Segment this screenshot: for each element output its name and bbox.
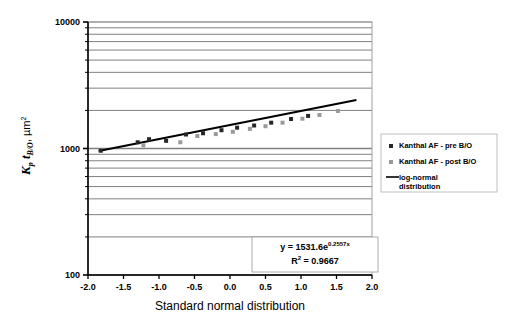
legend-label-pre-bo: Kanthal AF - pre B/O bbox=[399, 141, 472, 150]
r-squared-value: = 0.9667 bbox=[301, 256, 339, 266]
data-point-marker bbox=[289, 117, 293, 121]
x-axis-tick-label: 0.5 bbox=[259, 282, 272, 292]
y-axis-title-t-sub: B/O bbox=[26, 142, 35, 157]
equation-annotation: y = 1531.6e0.2557x R2 = 0.9667 bbox=[252, 237, 378, 272]
data-point-marker bbox=[136, 140, 140, 144]
y-axis-ticks-group bbox=[83, 22, 88, 275]
legend-marker-pre-bo-icon bbox=[389, 144, 393, 148]
data-point-marker bbox=[231, 130, 235, 134]
x-axis-title: Standard normal distribution bbox=[155, 299, 305, 313]
data-point-marker bbox=[300, 117, 304, 121]
data-point-marker bbox=[306, 114, 310, 118]
legend-marker-post-bo-icon bbox=[389, 160, 393, 164]
legend: Kanthal AF - pre B/O Kanthal AF - post B… bbox=[381, 134, 497, 192]
data-point-marker bbox=[99, 149, 103, 153]
y-axis-tick-label: 10000 bbox=[55, 17, 80, 27]
data-point-marker bbox=[214, 132, 218, 136]
legend-label-trendline-2: distribution bbox=[399, 182, 441, 191]
x-axis-tick-label: 1.5 bbox=[330, 282, 343, 292]
data-point-marker bbox=[219, 128, 223, 132]
y-axis-title-unit-sup: 2 bbox=[20, 116, 27, 120]
data-point-marker bbox=[269, 121, 273, 125]
log-normal-probability-plot: 100001000100 -2.0-1.5-1.0-0.50.00.51.01.… bbox=[0, 0, 505, 322]
chart-container: 100001000100 -2.0-1.5-1.0-0.50.00.51.01.… bbox=[0, 0, 505, 322]
y-axis-title-text: Kp tB/O, µm2 bbox=[18, 116, 35, 176]
data-point-marker bbox=[281, 121, 285, 125]
y-axis-tick-labels-group: 100001000100 bbox=[55, 17, 80, 280]
y-axis-title: Kp tB/O, µm2 bbox=[18, 116, 35, 176]
x-axis-tick-label: 2.0 bbox=[366, 282, 379, 292]
y-axis-tick-label: 1000 bbox=[60, 144, 80, 154]
x-axis-tick-label: -2.0 bbox=[80, 282, 96, 292]
x-axis-tick-label: -1.0 bbox=[151, 282, 167, 292]
data-point-marker bbox=[336, 109, 340, 113]
y-axis-title-unit: µm bbox=[20, 120, 32, 136]
data-point-marker bbox=[235, 126, 239, 130]
x-axis-tick-label: -1.5 bbox=[116, 282, 132, 292]
data-point-marker bbox=[147, 137, 151, 141]
data-point-marker bbox=[248, 127, 252, 131]
equation-exponent: 0.2557x bbox=[328, 241, 350, 247]
x-axis-tick-labels-group: -2.0-1.5-1.0-0.50.00.51.01.52.0 bbox=[80, 282, 378, 292]
data-point-marker bbox=[184, 133, 188, 137]
legend-label-trendline-1: log-normal bbox=[399, 173, 438, 182]
data-point-marker bbox=[164, 139, 168, 143]
data-point-marker bbox=[317, 113, 321, 117]
x-axis-tick-label: 0.0 bbox=[224, 282, 237, 292]
legend-label-post-bo: Kanthal AF - post B/O bbox=[399, 157, 476, 166]
y-axis-tick-label: 100 bbox=[65, 270, 80, 280]
equation-text: y = 1531.6e bbox=[280, 242, 328, 252]
data-point-marker bbox=[264, 124, 268, 128]
data-point-marker bbox=[178, 140, 182, 144]
x-axis-tick-label: 1.0 bbox=[295, 282, 308, 292]
data-point-marker bbox=[141, 143, 145, 147]
data-point-marker bbox=[195, 134, 199, 138]
x-axis-tick-label: -0.5 bbox=[187, 282, 203, 292]
data-point-marker bbox=[201, 131, 205, 135]
data-point-marker bbox=[252, 124, 256, 128]
